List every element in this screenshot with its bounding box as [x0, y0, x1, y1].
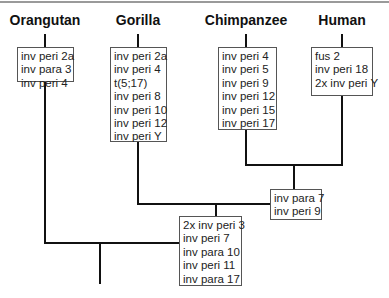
event-item: inv peri 5 [222, 63, 274, 76]
event-item: inv peri 11 [183, 259, 239, 272]
crossbar-gorilla-clade [137, 203, 271, 205]
event-item: inv peri 17 [222, 117, 274, 130]
event-item: inv para 17 [183, 273, 239, 286]
events-box-african-apes: 2x inv peri 3 inv peri 7 inv para 10 inv… [179, 216, 242, 286]
event-item: inv peri 8 [114, 90, 164, 103]
top-border [0, 1, 389, 3]
event-item: 2x inv peri 3 [183, 219, 239, 232]
event-item: inv peri 12 [222, 90, 274, 103]
event-item: inv peri Y [114, 130, 164, 143]
event-item: inv peri 7 [183, 232, 239, 245]
events-box-chimp-human: inv para 7 inv peri 9 [270, 189, 322, 220]
event-item: inv peri 4 [21, 77, 71, 90]
taxon-label-human: Human [318, 12, 365, 28]
taxon-label-orangutan: Orangutan [10, 12, 81, 28]
event-item: inv peri 2a [114, 50, 164, 63]
event-item: t(5;17) [114, 77, 164, 90]
taxon-label-gorilla: Gorilla [116, 12, 160, 28]
events-box-gorilla: inv peri 2a inv peri 4 t(5;17) inv peri … [110, 47, 167, 142]
event-item: inv para 10 [183, 246, 239, 259]
stem-african-apes [215, 203, 217, 217]
event-item: fus 2 [315, 50, 370, 63]
event-item: inv peri 2a [21, 50, 71, 63]
event-item: inv para 7 [274, 192, 319, 205]
event-item: inv peri 9 [222, 77, 274, 90]
event-item: 2x inv peri Y [315, 77, 370, 90]
event-item: inv peri 10 [114, 104, 164, 117]
event-item: inv peri 12 [114, 117, 164, 130]
events-box-orangutan: inv peri 2a inv para 3 inv peri 4 [17, 47, 74, 82]
events-box-chimpanzee: inv peri 4 inv peri 5 inv peri 9 inv per… [218, 47, 277, 130]
stem-chimp-human [293, 164, 295, 190]
event-item: inv peri 15 [222, 104, 274, 117]
events-box-human: fus 2 inv peri 18 2x inv peri Y [311, 47, 373, 96]
event-item: inv peri 4 [114, 63, 164, 76]
taxon-label-chimpanzee: Chimpanzee [205, 12, 287, 28]
root-stem [99, 242, 101, 284]
event-item: inv peri 4 [222, 50, 274, 63]
event-item: inv peri 18 [315, 63, 370, 76]
event-item: inv peri 9 [274, 205, 319, 218]
event-item: inv para 3 [21, 63, 71, 76]
crossbar-orangutan-clade [44, 242, 180, 244]
